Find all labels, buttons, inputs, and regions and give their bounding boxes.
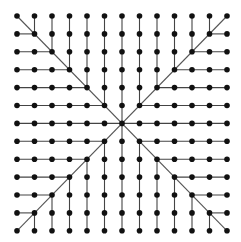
grid-node [14,174,20,180]
grid-node [207,31,213,37]
grid-node [189,13,195,19]
grid-node [224,121,230,127]
grid-node [67,192,73,198]
grid-node [14,139,20,145]
grid-node [207,67,213,73]
grid-node [224,174,230,180]
grid-node [32,192,38,198]
grid-node [14,85,20,91]
grid-node [119,67,125,73]
grid-node [84,174,90,180]
grid-node [119,31,125,37]
grid-node [172,156,178,162]
grid-node [119,192,125,198]
grid-node [137,13,143,19]
grid-node [67,121,73,127]
grid-node [49,121,55,127]
grid-node [172,85,178,91]
grid-node [67,174,73,180]
grid-node [67,103,73,109]
grid-node [49,192,55,198]
grid-node [49,49,55,55]
grid-node [154,67,160,73]
grid-node [224,13,230,19]
grid-node [224,156,230,162]
grid-node [84,85,90,91]
grid-node [84,121,90,127]
grid-node [49,31,55,37]
grid-node [154,121,160,127]
grid-node [207,49,213,55]
grid-diagram [0,0,241,242]
grid-node [67,139,73,145]
grid-node [189,67,195,73]
grid-node [119,85,125,91]
grid-node [154,192,160,198]
grid-node [137,228,143,234]
grid-node [119,13,125,19]
grid-node [84,31,90,37]
grid-node [189,49,195,55]
grid-node [172,49,178,55]
grid-node [207,156,213,162]
grid-node [14,67,20,73]
grid-node [172,31,178,37]
grid-node [14,31,20,37]
grid-node [137,103,143,109]
grid-node [154,85,160,91]
grid-node [224,228,230,234]
grid-node [119,49,125,55]
grid-node [102,85,108,91]
grid-node [224,192,230,198]
grid-node [102,13,108,19]
grid-node [189,85,195,91]
grid-node [207,103,213,109]
grid-node [119,156,125,162]
grid-node [189,31,195,37]
grid-node [67,67,73,73]
grid-node [102,174,108,180]
grid-node [102,67,108,73]
grid-node [189,156,195,162]
grid-node [137,174,143,180]
grid-node [189,121,195,127]
grid-node [172,13,178,19]
grid-node [49,13,55,19]
grid-node [224,49,230,55]
grid-node [207,121,213,127]
grid-node [102,210,108,216]
grid-node [154,103,160,109]
grid-node [32,49,38,55]
grid-node [154,49,160,55]
grid-node [224,85,230,91]
grid-node [14,103,20,109]
grid-node [14,210,20,216]
grid-node [224,139,230,145]
grid-node [32,121,38,127]
grid-node [154,156,160,162]
grid-node [67,210,73,216]
grid-node [49,228,55,234]
grid-node [189,139,195,145]
grid-node [84,228,90,234]
grid-node [154,210,160,216]
grid-node [224,67,230,73]
grid-node [137,192,143,198]
grid-node [137,49,143,55]
grid-node [32,85,38,91]
grid-node [189,228,195,234]
grid-node [207,228,213,234]
grid-node [14,49,20,55]
grid-node [32,31,38,37]
grid-node [84,210,90,216]
grid-node [207,85,213,91]
grid-node [119,121,125,127]
grid-node [189,192,195,198]
grid-node [67,85,73,91]
grid-node [102,156,108,162]
grid-node [172,192,178,198]
grid-node [154,228,160,234]
grid-node [137,67,143,73]
grid-node [14,156,20,162]
grid-node [207,192,213,198]
